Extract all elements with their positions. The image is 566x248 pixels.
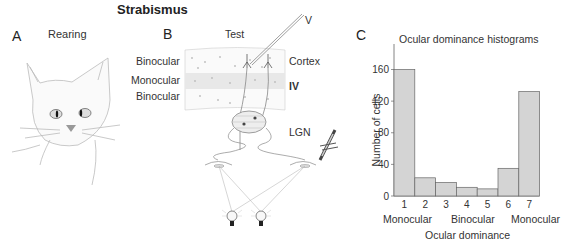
ocular-dominance-histogram: 040801201601234567 [0,0,566,248]
y-tick-label: 120 [372,96,389,107]
histogram-bar [477,189,498,196]
histogram-bar [498,168,519,196]
x-tick-label: 4 [464,199,470,210]
x-tick-label: 3 [443,199,449,210]
y-tick-label: 160 [372,64,389,75]
histogram-bar [394,70,415,197]
x-tick-label: 6 [506,199,512,210]
histogram-bar [436,183,457,196]
y-tick-label: 0 [383,191,389,202]
histogram-bar [519,92,540,196]
histogram-bar [456,187,477,196]
x-tick-label: 5 [485,199,491,210]
x-tick-label: 7 [526,199,532,210]
x-tick-label: 1 [402,199,408,210]
histogram-bar [415,178,436,196]
x-tick-label: 2 [422,199,428,210]
y-tick-label: 40 [378,159,390,170]
y-tick-label: 80 [378,127,390,138]
